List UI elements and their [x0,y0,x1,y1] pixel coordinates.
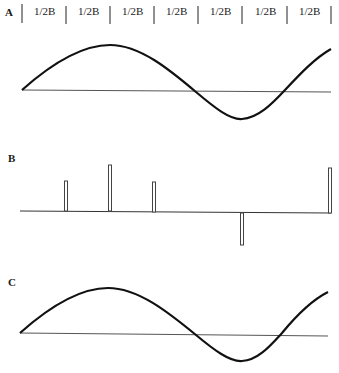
interval-label: 1/2B [299,5,320,17]
sample-spike-negative [241,213,244,245]
waveform-curve [22,45,331,119]
sampling-diagram: A 1/2B 1/2B 1/2B 1/2B 1/2B 1/2B 1/2B B C [0,0,339,373]
interval-label: 1/2B [34,5,55,17]
sample-spike [153,182,156,212]
interval-label: 1/2B [122,5,143,17]
interval-label: 1/2B [210,5,231,17]
interval-label: 1/2B [78,5,99,17]
panel-a-waveform [22,45,331,119]
sample-spike [109,165,112,211]
panel-c-waveform [20,288,328,361]
panel-b-samples [20,165,332,245]
sample-spike [65,181,68,211]
panel-label-b: B [8,152,16,164]
reconstructed-curve [20,288,328,361]
sample-spike [329,168,332,213]
panel-label-a: A [5,6,13,18]
interval-label: 1/2B [255,5,276,17]
interval-label: 1/2B [166,5,187,17]
panel-label-c: C [8,276,16,288]
